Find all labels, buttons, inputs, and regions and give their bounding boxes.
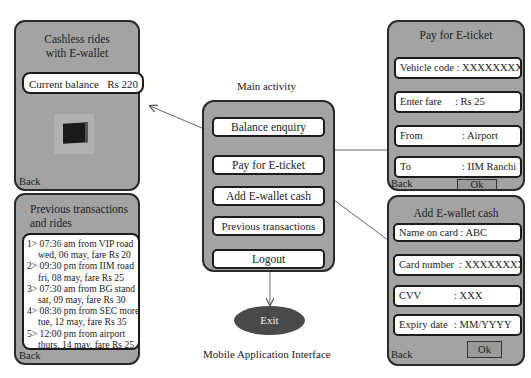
name-on-card-field[interactable]: Name on card : ABC — [393, 223, 522, 242]
main-activity-screen: Balance enquiry Pay for E-ticket Add E-w… — [202, 100, 335, 272]
pay-eticket-button[interactable]: Pay for E-ticket — [212, 155, 325, 175]
vehicle-code-field[interactable]: Vehicle code : XXXXXXXX — [394, 57, 522, 79]
title-line: Cashless rides — [16, 32, 138, 46]
logout-button[interactable]: Logout — [212, 249, 325, 269]
exit-node[interactable]: Exit — [234, 306, 305, 335]
eticket-title: Pay for E-ticket — [389, 28, 523, 42]
item-line: 4> 08:36 pm from SEC more — [27, 305, 135, 316]
item-line: thurs, 14 may, fare Rs 25 — [27, 339, 135, 350]
field-label: CVV — [399, 290, 454, 302]
field-value: : XXX — [454, 290, 482, 301]
cvv-field[interactable]: CVV: XXX — [393, 285, 522, 307]
balance-screen-title: Cashless rides with E-wallet — [16, 32, 138, 60]
ok-button[interactable]: Ok — [457, 179, 497, 190]
back-button[interactable]: Back — [19, 176, 41, 187]
item-line: 2> 09:30 pm from IIM road — [27, 260, 135, 271]
list-item[interactable]: 4> 08:36 pm from SEC moretue, 12 may, fa… — [27, 305, 135, 327]
back-button[interactable]: Back — [391, 178, 413, 189]
diagram-caption: Mobile Application Interface — [203, 348, 331, 360]
item-line: wed, 06 may, fare Rs 20 — [27, 249, 135, 260]
field-value: : MM/YYYY — [454, 319, 511, 330]
wallet-cash-title: Add E-wallet cash — [389, 206, 523, 220]
field-label: Enter fare — [400, 96, 455, 108]
list-item[interactable]: 2> 09:30 pm from IIM roadfri, 08 may, fa… — [27, 260, 135, 282]
title-line: with E-wallet — [16, 46, 138, 60]
wallet-icon — [54, 114, 94, 154]
field-label: Name on card — [399, 227, 458, 238]
field-value: : Airport — [462, 130, 498, 141]
transactions-title: Previous transactions and rides — [30, 202, 128, 230]
field-label: Expiry date — [399, 319, 454, 331]
from-field[interactable]: From: Airport — [394, 125, 522, 147]
list-item[interactable]: 5> 12:00 pm from airportthurs, 14 may, f… — [27, 328, 135, 350]
field-value: : ABC — [461, 227, 488, 238]
field-value: : Rs 25 — [455, 96, 485, 107]
field-label: Vehicle code — [400, 62, 454, 73]
card-number-field[interactable]: Card number: XXXXXXXX — [393, 254, 522, 276]
back-button[interactable]: Back — [19, 350, 41, 361]
list-item[interactable]: 1> 07:36 am from VIP roadwed, 06 may, fa… — [27, 238, 135, 260]
field-value: : XXXXXXXX — [457, 62, 522, 73]
field-value: : XXXXXXXX — [459, 259, 522, 270]
add-ewallet-cash-button[interactable]: Add E-wallet cash — [212, 186, 325, 206]
item-line: tue, 12 may, fare Rs 35 — [27, 316, 135, 327]
balance-label: Current balance — [29, 78, 99, 90]
transactions-list: 1> 07:36 am from VIP roadwed, 06 may, fa… — [22, 233, 140, 350]
field-label: Card number — [399, 259, 459, 271]
fare-field[interactable]: Enter fare: Rs 25 — [394, 91, 522, 113]
balance-screen: Cashless rides with E-wallet Current bal… — [14, 20, 140, 191]
list-item[interactable]: 3> 07:30 am from BG standsat, 09 may, fa… — [27, 283, 135, 305]
title-line: and rides — [30, 216, 128, 230]
back-button[interactable]: Back — [391, 349, 413, 360]
eticket-screen: Pay for E-ticket Vehicle code : XXXXXXXX… — [387, 20, 525, 191]
item-line: 3> 07:30 am from BG stand — [27, 283, 135, 294]
to-field[interactable]: To: IIM Ranchi — [394, 156, 522, 178]
previous-transactions-button[interactable]: Previous transactions — [212, 216, 325, 236]
field-label: To — [400, 161, 462, 173]
field-label: From — [400, 130, 462, 142]
transactions-screen: Previous transactions and rides 1> 07:36… — [14, 193, 140, 365]
current-balance-field: Current balance Rs 220 — [22, 72, 144, 94]
main-activity-caption: Main activity — [237, 80, 296, 92]
add-wallet-cash-screen: Add E-wallet cash Name on card : ABC Car… — [387, 195, 525, 366]
expiry-date-field[interactable]: Expiry date: MM/YYYY — [393, 314, 522, 336]
item-line: 1> 07:36 am from VIP road — [27, 238, 135, 249]
field-value: : IIM Ranchi — [462, 161, 516, 172]
item-line: sat, 09 may, fare Rs 30 — [27, 294, 135, 305]
item-line: fri, 08 may, fare Rs 25 — [27, 272, 135, 283]
item-line: 5> 12:00 pm from airport — [27, 328, 135, 339]
balance-enquiry-button[interactable]: Balance enquiry — [212, 117, 325, 137]
title-line: Previous transactions — [30, 202, 128, 216]
balance-value: Rs 220 — [107, 78, 138, 90]
ok-button[interactable]: Ok — [467, 341, 502, 358]
